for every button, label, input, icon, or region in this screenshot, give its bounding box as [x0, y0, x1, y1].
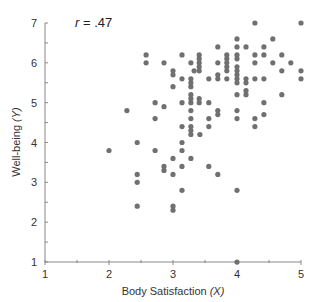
- y-tick-label: 3: [31, 176, 37, 188]
- x-tick-label: 3: [170, 268, 176, 280]
- data-point: [206, 124, 211, 129]
- data-point: [179, 52, 184, 57]
- data-point: [234, 116, 239, 121]
- data-point: [153, 116, 158, 121]
- data-point: [170, 156, 175, 161]
- data-point: [106, 148, 111, 153]
- data-point: [252, 60, 257, 65]
- data-point: [224, 68, 229, 73]
- data-point: [188, 84, 193, 89]
- y-axis-title-var: (Y): [10, 107, 22, 122]
- data-point: [261, 52, 266, 57]
- data-point: [243, 44, 248, 49]
- data-point: [179, 164, 184, 169]
- data-point: [298, 68, 303, 73]
- data-point: [197, 132, 202, 137]
- data-point: [243, 80, 248, 85]
- data-points: [106, 20, 303, 264]
- x-tick-label: 1: [42, 268, 48, 280]
- data-point: [179, 100, 184, 105]
- data-point: [135, 140, 140, 145]
- data-point: [161, 60, 166, 65]
- x-tick-label: 5: [298, 268, 304, 280]
- data-point: [170, 172, 175, 177]
- data-point: [234, 36, 239, 41]
- data-point: [279, 52, 284, 57]
- y-tick-label: 4: [31, 137, 37, 149]
- data-point: [197, 68, 202, 73]
- data-point: [206, 76, 211, 81]
- data-point: [234, 108, 239, 113]
- correlation-value: = .47: [79, 15, 112, 30]
- data-point: [179, 148, 184, 153]
- data-point: [161, 168, 166, 173]
- data-point: [153, 148, 158, 153]
- x-tick-label: 2: [106, 268, 112, 280]
- data-point: [188, 108, 193, 113]
- data-point: [197, 100, 202, 105]
- data-point: [215, 44, 220, 49]
- data-point: [261, 100, 266, 105]
- data-point: [288, 60, 293, 65]
- data-point: [206, 164, 211, 169]
- correlation-annotation: r = .47: [75, 15, 112, 30]
- data-point: [153, 100, 158, 105]
- data-point: [135, 180, 140, 185]
- x-axis-title-main: Body Satisfaction: [122, 285, 210, 297]
- scatter-chart: 123451234567 r = .47 Body Satisfaction (…: [0, 0, 314, 302]
- data-point: [215, 112, 220, 117]
- data-point: [279, 68, 284, 73]
- data-point: [135, 204, 140, 209]
- y-axis-title: Well-being (Y): [10, 107, 22, 177]
- data-point: [188, 60, 193, 65]
- x-axis-title: Body Satisfaction (X): [122, 285, 225, 297]
- data-point: [252, 20, 257, 25]
- data-point: [170, 84, 175, 89]
- data-point: [179, 188, 184, 193]
- data-point: [243, 92, 248, 97]
- data-point: [161, 104, 166, 109]
- data-point: [279, 92, 284, 97]
- data-point: [144, 60, 149, 65]
- data-point: [261, 112, 266, 117]
- data-point: [261, 44, 266, 49]
- data-point: [298, 76, 303, 81]
- data-point: [234, 92, 239, 97]
- data-point: [206, 116, 211, 121]
- data-point: [252, 124, 257, 129]
- data-point: [270, 36, 275, 41]
- data-point: [234, 188, 239, 193]
- data-point: [188, 156, 193, 161]
- data-point: [135, 172, 140, 177]
- y-tick-label: 2: [31, 216, 37, 228]
- data-point: [188, 132, 193, 137]
- data-point: [234, 80, 239, 85]
- data-point: [124, 108, 129, 113]
- data-point: [170, 72, 175, 77]
- data-point: [252, 76, 257, 81]
- data-point: [188, 116, 193, 121]
- data-point: [270, 60, 275, 65]
- data-point: [179, 124, 184, 129]
- data-point: [170, 208, 175, 213]
- data-point: [179, 76, 184, 81]
- x-tick-label: 4: [234, 268, 240, 280]
- data-point: [252, 116, 257, 121]
- data-point: [206, 100, 211, 105]
- data-point: [192, 68, 197, 73]
- data-point: [234, 44, 239, 49]
- data-point: [261, 76, 266, 81]
- y-tick-label: 5: [31, 97, 37, 109]
- data-point: [215, 76, 220, 81]
- data-point: [215, 172, 220, 177]
- data-point: [252, 52, 257, 57]
- data-point: [234, 56, 239, 61]
- y-tick-label: 6: [31, 57, 37, 69]
- data-point: [298, 20, 303, 25]
- data-point: [144, 52, 149, 57]
- y-axis-title-main: Well-being: [10, 122, 22, 177]
- data-point: [215, 60, 220, 65]
- data-point: [179, 140, 184, 145]
- x-axis-title-var: (X): [210, 285, 225, 297]
- data-point: [188, 100, 193, 105]
